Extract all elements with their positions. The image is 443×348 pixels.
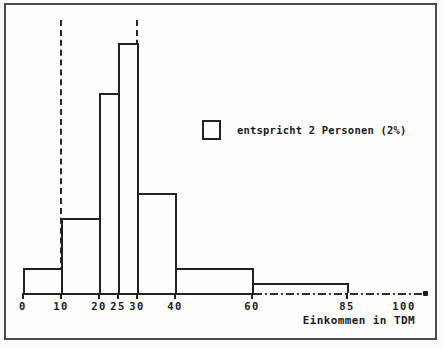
x-tick-0 [22, 293, 24, 299]
histogram-bar-60-85 [252, 283, 349, 293]
histogram-bar-10-20 [61, 218, 101, 293]
histogram-bar-20-25 [99, 93, 120, 293]
legend-label: entspricht 2 Personen (2%) [237, 124, 407, 136]
x-tick-label-20: 20 [91, 300, 107, 312]
x-tick-label-30: 30 [129, 300, 145, 312]
x-tick-label-40: 40 [167, 300, 183, 312]
x-tick-label-10: 10 [53, 300, 69, 312]
x-axis-line [23, 293, 254, 295]
x-axis-arrow-dot [423, 291, 428, 296]
x-tick-label-25: 25 [110, 300, 126, 312]
x-tick-20 [98, 293, 100, 299]
x-tick-30 [136, 293, 138, 299]
x-tick-10 [60, 293, 62, 299]
x-tick-40 [174, 293, 176, 299]
x-tick-label-100: 100 [392, 300, 415, 312]
x-axis-title: Einkommen in TDM [303, 314, 415, 327]
x-tick-60 [251, 293, 253, 299]
histogram-bar-0-10 [23, 268, 63, 293]
x-tick-label-0: 0 [19, 300, 27, 312]
histogram-bar-40-60 [175, 268, 254, 293]
histogram-bar-30-40 [137, 193, 177, 293]
x-axis-extension-line [254, 293, 422, 295]
x-tick-label-60: 60 [244, 300, 260, 312]
histogram-bar-25-30 [118, 43, 139, 293]
histogram-plot: 010202530406085100 [0, 0, 443, 348]
legend-unit-square-icon [202, 120, 221, 140]
x-tick-label-85: 85 [339, 300, 355, 312]
x-tick-85 [346, 293, 348, 299]
x-tick-25 [117, 293, 119, 299]
